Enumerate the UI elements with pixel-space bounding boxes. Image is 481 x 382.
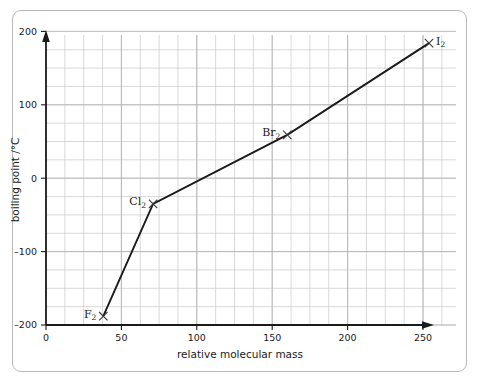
x-tick-label: 50: [115, 332, 127, 343]
y-tick-label: 100: [19, 99, 37, 110]
data-point-label: Br2: [262, 126, 280, 141]
x-axis-title: relative molecular mass: [177, 348, 303, 360]
data-point-label: I2: [436, 35, 445, 50]
data-point-marker: [283, 131, 291, 139]
y-tick-label: –100: [14, 246, 37, 257]
x-tick-label: 150: [263, 332, 281, 343]
y-tick-label: –200: [14, 319, 37, 330]
figure-root: 050100150200250 –200–1000100200 F2Cl2Br2…: [0, 0, 481, 382]
y-axis-title: boiling point /°C: [9, 138, 21, 223]
x-tick-label: 200: [339, 332, 357, 343]
grid-minor-lines: [46, 35, 456, 325]
axes-group: [42, 30, 434, 329]
y-tick-label: 0: [31, 173, 37, 184]
x-axis-arrowhead: [422, 321, 434, 329]
x-axis-ticks: 050100150200250: [43, 325, 432, 343]
x-tick-label: 0: [43, 332, 49, 343]
boiling-point-chart: 050100150200250 –200–1000100200 F2Cl2Br2…: [0, 0, 481, 382]
data-point-label: F2: [84, 308, 97, 323]
y-tick-label: 200: [19, 26, 37, 37]
data-point-marker: [425, 39, 433, 47]
data-point-marker: [99, 312, 107, 320]
data-point-markers: [99, 39, 433, 320]
x-tick-label: 250: [414, 332, 432, 343]
x-tick-label: 100: [188, 332, 206, 343]
data-line-series: [103, 43, 429, 316]
data-point-label: Cl2: [129, 195, 146, 210]
data-point-marker: [149, 200, 157, 208]
grid-major-lines: [46, 31, 456, 325]
